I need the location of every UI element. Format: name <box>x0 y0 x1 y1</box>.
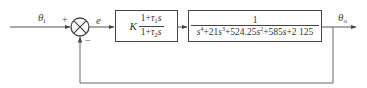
controller-numerator: 1+τ1s <box>139 13 164 26</box>
summing-junction <box>71 18 89 36</box>
error-signal-label: e <box>96 15 101 26</box>
plant-fraction: 1 s4+21s3+524.25s2+585s+2 125 <box>189 15 321 38</box>
plant-denominator: s4+21s3+524.25s2+585s+2 125 <box>191 25 319 37</box>
plus-sign: + <box>62 15 68 25</box>
minus-sign: − <box>85 36 91 46</box>
plant-numerator: 1 <box>251 15 260 25</box>
output-signal-label: θo <box>338 12 347 25</box>
controller-denominator: 1+τ2s <box>139 26 164 40</box>
controller-fraction: 1+τ1s 1+τ2s <box>139 13 164 39</box>
controller-block: K 1+τ1s 1+τ2s <box>115 10 178 42</box>
plant-block: 1 s4+21s3+524.25s2+585s+2 125 <box>188 10 322 42</box>
input-signal-label: θi <box>38 12 45 25</box>
gain-k: K <box>129 20 136 32</box>
